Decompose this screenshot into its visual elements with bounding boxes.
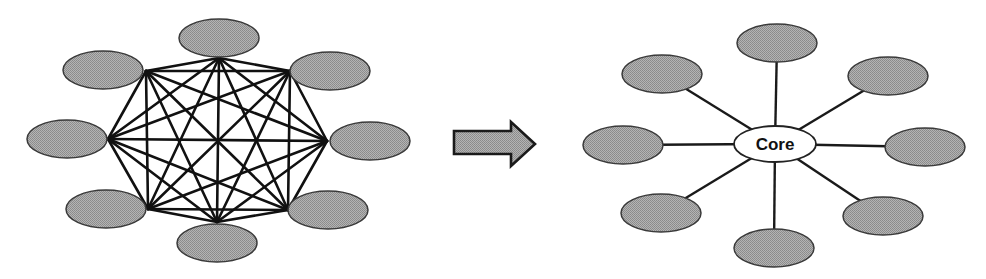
mesh-edges bbox=[108, 58, 327, 222]
mesh-edge bbox=[217, 210, 288, 222]
mesh-node-right bbox=[330, 122, 410, 160]
mesh-edge bbox=[219, 58, 290, 71]
hub-spoke-diagram: Core bbox=[583, 24, 965, 267]
hub-node-top-left bbox=[622, 55, 702, 93]
mesh-node-left bbox=[27, 120, 107, 158]
mesh-node-bottom-right bbox=[288, 191, 368, 229]
hub-node-top bbox=[737, 24, 817, 62]
core-label: Core bbox=[756, 135, 795, 154]
core-node: Core bbox=[734, 126, 816, 162]
mesh-node-top bbox=[179, 19, 259, 57]
mesh-edge bbox=[148, 209, 288, 210]
mesh-edge bbox=[146, 71, 148, 209]
mesh-node-bottom bbox=[177, 224, 257, 262]
topology-diagram: Core bbox=[0, 0, 986, 279]
transition-arrow-icon bbox=[454, 122, 535, 166]
hub-node-right bbox=[885, 128, 965, 166]
full-mesh-diagram bbox=[27, 19, 410, 262]
mesh-node-top-left bbox=[63, 51, 143, 89]
mesh-node-top-right bbox=[290, 52, 370, 90]
hub-node-bottom bbox=[734, 229, 814, 267]
hub-node-top-right bbox=[848, 57, 928, 95]
hub-node-left bbox=[583, 126, 663, 164]
hub-node-bottom-right bbox=[843, 197, 923, 235]
mesh-node-bottom-left bbox=[66, 190, 146, 228]
hub-node-bottom-left bbox=[621, 194, 701, 232]
